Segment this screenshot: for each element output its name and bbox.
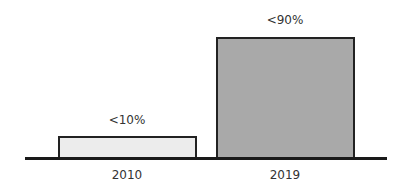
value-label-2010: <10% bbox=[87, 113, 167, 127]
x-tick-2019: 2019 bbox=[245, 168, 325, 182]
bar-2010 bbox=[58, 136, 197, 158]
value-label-2019: <90% bbox=[245, 13, 325, 27]
x-tick-2010: 2010 bbox=[87, 168, 167, 182]
x-axis-line bbox=[25, 157, 387, 160]
bar-2019 bbox=[216, 37, 355, 158]
